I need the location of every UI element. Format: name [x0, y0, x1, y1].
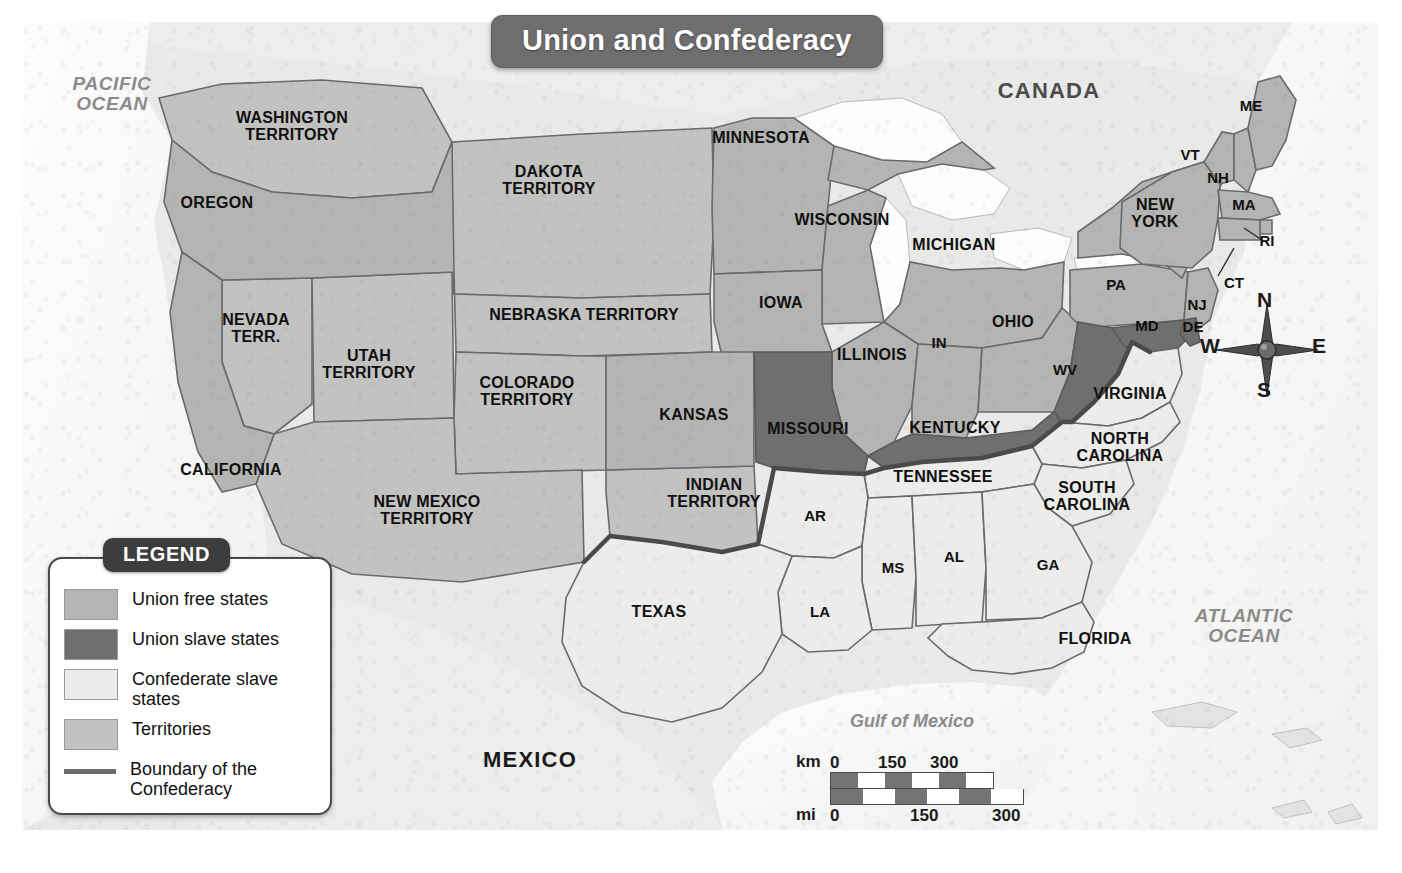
- page-background: WASHINGTON TERRITORYOREGONDAKOTA TERRITO…: [0, 0, 1402, 873]
- scale-mi-tick-0: 0: [830, 806, 839, 826]
- state-arkansas: [758, 468, 868, 558]
- scale-km-ticks: 0 150 300: [830, 753, 1020, 772]
- legend-label-0: Union free states: [132, 587, 268, 609]
- scale-bars: [796, 772, 1024, 805]
- legend-items: Union free statesUnion slave statesConfe…: [64, 587, 320, 799]
- state-louisiana: [778, 546, 872, 652]
- map-scale-bar: km 0 150 300: [796, 752, 1024, 825]
- legend-swatch-boundary-line: [64, 757, 116, 786]
- scale-mi-tick-150: 150: [910, 806, 938, 826]
- legend-row-3: Territories: [64, 717, 320, 750]
- scale-km-tick-0: 0: [830, 753, 839, 773]
- map-title-banner: Union and Confederacy: [491, 15, 883, 68]
- legend-swatch-0: [64, 589, 118, 620]
- state-dakota-territory: [450, 128, 714, 298]
- legend-row-1: Union slave states: [64, 627, 320, 660]
- scale-mi-tick-300: 300: [992, 806, 1020, 826]
- scale-mi-unit: mi: [796, 805, 830, 825]
- legend-row-4: Boundary of the Confederacy: [64, 757, 320, 800]
- scale-bar-km: [830, 772, 994, 789]
- compass-rose: N E S W: [1202, 290, 1332, 410]
- map-title-text: Union and Confederacy: [522, 25, 852, 55]
- state-connecticut: [1218, 218, 1260, 240]
- legend-swatch-1: [64, 629, 118, 660]
- state-alabama: [912, 492, 986, 626]
- state-colorado-territory: [454, 352, 606, 474]
- state-indiana: [912, 344, 982, 438]
- compass-east-label: E: [1312, 334, 1326, 358]
- legend-heading: LEGEND: [103, 538, 230, 572]
- map-legend: LEGEND Union free statesUnion slave stat…: [48, 557, 332, 815]
- state-utah-territory: [312, 272, 454, 422]
- scale-mi-ticks: 0 150 300: [830, 806, 1020, 825]
- legend-swatch-3: [64, 719, 118, 750]
- state-pennsylvania: [1070, 264, 1188, 328]
- state-minnesota: [712, 118, 834, 274]
- legend-row-2: Confederate slave states: [64, 667, 320, 710]
- state-iowa: [714, 270, 832, 356]
- legend-label-2: Confederate slave states: [132, 667, 278, 710]
- legend-row-0: Union free states: [64, 587, 320, 620]
- compass-north-label: N: [1257, 288, 1272, 312]
- state-michigan-lower: [884, 262, 1064, 348]
- scale-km-ticks-row: km 0 150 300: [796, 752, 1024, 772]
- compass-south-label: S: [1257, 378, 1271, 402]
- scale-km-tick-150: 150: [878, 753, 906, 773]
- state-rhode-island: [1260, 220, 1272, 234]
- scale-bar-graphics: [830, 772, 1024, 805]
- legend-label-4: Boundary of the Confederacy: [130, 757, 257, 800]
- compass-west-label: W: [1200, 334, 1220, 358]
- state-mississippi: [862, 496, 916, 630]
- state-kansas: [606, 352, 754, 470]
- legend-swatch-2: [64, 669, 118, 700]
- scale-km-tick-300: 300: [930, 753, 958, 773]
- legend-label-1: Union slave states: [132, 627, 279, 649]
- scale-bar-mi: [830, 789, 1024, 805]
- legend-label-3: Territories: [132, 717, 211, 739]
- scale-km-unit: km: [796, 752, 830, 772]
- scale-mi-ticks-row: mi 0 150 300: [796, 805, 1024, 825]
